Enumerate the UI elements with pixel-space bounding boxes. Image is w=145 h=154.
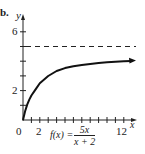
y-axis-arrow-icon (21, 14, 25, 20)
y-axis-label: y (16, 10, 21, 21)
origin-label: 0 (16, 126, 22, 137)
y-tick-label-2: 2 (12, 85, 18, 96)
x-tick-label-2: 2 (36, 126, 42, 137)
y-tick-label-6: 6 (12, 26, 18, 37)
fraction-numerator: 5x (74, 124, 95, 136)
fraction-denominator: x + 2 (74, 136, 95, 148)
x-axis-label: x (130, 120, 134, 130)
x-tick-label-12: 12 (116, 126, 127, 137)
curve-arrow-icon (129, 58, 136, 64)
function-curve (23, 61, 131, 120)
function-fraction: 5x x + 2 (74, 124, 95, 148)
function-label: f(x) = (50, 130, 73, 140)
part-label: b. (0, 7, 9, 18)
